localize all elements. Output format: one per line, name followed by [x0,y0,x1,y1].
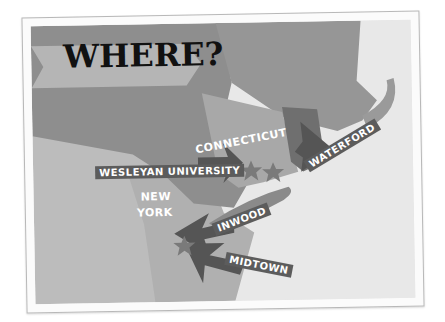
label-new-york-2: YORK [137,206,173,220]
map: WHERE? CONNECTICUT WATERFORD WESLEYAN UN… [31,20,416,305]
label-wesleyan-university: WESLEYAN UNIVERSITY [95,164,244,180]
postcard: WHERE? CONNECTICUT WATERFORD WESLEYAN UN… [21,11,424,314]
page-title: WHERE? [63,35,224,76]
label-new-york-1: NEW [140,190,171,204]
